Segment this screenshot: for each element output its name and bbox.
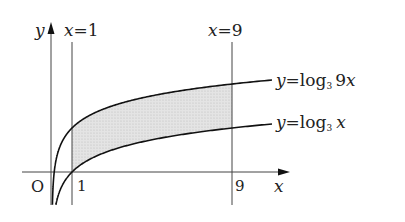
origin-label: O: [31, 177, 44, 196]
x-axis-arrow-icon: [278, 169, 290, 176]
label-y-log3-x: y=log3x: [275, 112, 346, 133]
label-x-equals-1: x=1: [64, 20, 99, 40]
y-axis-label: y: [34, 20, 45, 40]
x-axis-label: x: [274, 176, 284, 196]
x-tick-1: 1: [77, 177, 87, 195]
y-axis-arrow-icon: [48, 22, 55, 34]
label-y-log3-9x: y=log39x: [275, 70, 356, 91]
label-x-equals-9: x=9: [208, 20, 243, 40]
log-area-diagram: y x O 1 9 x=1 x=9 y=log39x y=log3x: [0, 0, 405, 222]
shaded-region: [72, 84, 232, 172]
x-tick-9: 9: [235, 177, 245, 195]
